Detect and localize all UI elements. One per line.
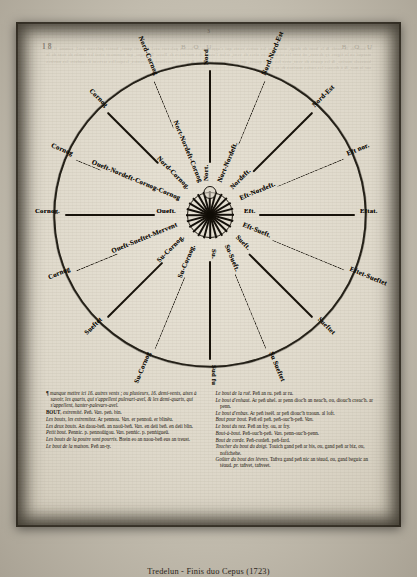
dictionary-entry: ¶ manque mettre ici 16. autres vents ; o… <box>46 390 207 408</box>
compass-rose-figure: Nort.NordNort-Nordeft.Nord-Nord-EstNorde… <box>54 60 366 370</box>
ray-label-french: Nord-Nord-Est <box>260 30 284 76</box>
column-right: Le bout de la ruë. Peñ an ru. peñ ar ru.… <box>216 390 377 518</box>
dictionary-entry: Goûter du bout des lévres. Tañva gand pe… <box>216 456 377 468</box>
hub-cap-circle <box>204 186 217 199</box>
dictionary-entry: Le bout d'enhaut. Ar peñ uhel. ar penn d… <box>216 397 377 409</box>
ray-solid-rule <box>209 261 211 360</box>
running-head-right: B O U <box>342 43 375 51</box>
ray-label-french: Sueftet <box>317 315 337 335</box>
dictionary-entry: Bout pour bout. Peñ eil peñ. peñ-ouc'h-p… <box>216 416 377 422</box>
dictionary-entry: Les bouts, les extremitez. Ar pennou. Va… <box>46 416 207 422</box>
scan-background: le bout de la corde & le bout du doigt, … <box>0 0 417 577</box>
ray-label-french: Cornog. <box>35 207 60 214</box>
dictionary-entry: Les deux bouts. An daou-beñ. an naoü-beñ… <box>46 423 207 429</box>
dictionary-entry: Petit bout. Pennic. p. pennoüigou. Van. … <box>46 429 207 435</box>
running-head-left: B O U <box>181 43 214 51</box>
ray-label-breton: Su. <box>211 249 218 259</box>
ray-label-french: Eft nor. <box>346 141 371 157</box>
ray-label-french: Sueftet <box>83 315 103 335</box>
hub-center-dot <box>207 212 214 219</box>
ray-label-french: Su Sueftet <box>268 351 287 383</box>
ray-label-french: Eftet-Sueftet <box>349 265 388 287</box>
ray-label-french: Su-Cornog <box>132 351 151 385</box>
column-left: ¶ manque mettre ici 16. autres vents ; o… <box>46 390 207 518</box>
ray-label-french: Nord <box>202 49 209 65</box>
dictionary-entry: Bout-à-bout. Peñ-ouc'h-peñ. Van. penn-ou… <box>216 430 377 436</box>
dictionary-entry: Toucher du bout du doigt. Touich gand pe… <box>216 443 377 455</box>
ray-solid-rule <box>259 214 355 216</box>
ray-label-french: Nord-Est <box>310 83 335 108</box>
ray-label-breton: Oueft. <box>156 207 176 214</box>
dictionary-entry: Bout de corde. Peñ-cordeñ. peñ-fard. <box>216 437 377 443</box>
dictionary-entry: Le bout du nez. Peñ an fry. ou, ar fry. <box>216 423 377 429</box>
dictionary-entry: Les bouts de la poutre sont pourris. Bre… <box>46 436 207 442</box>
ray-label-breton: Eft. <box>244 207 256 214</box>
folio-number: 18 <box>42 42 54 51</box>
dictionary-entry: Le bout d'enbas. Ar peñ iseël. ar peñ di… <box>216 410 377 416</box>
book-page: le bout de la corde & le bout du doigt, … <box>16 22 401 527</box>
dictionary-entry: Le bout de la maison. Peñ an-ty. <box>46 443 207 449</box>
dictionary-columns: ¶ manque mettre ici 16. autres vents ; o… <box>46 390 376 518</box>
dictionary-entry: Le bout de la ruë. Peñ an ru. peñ ar ru. <box>216 390 377 396</box>
signature-mark: 3 <box>207 28 210 34</box>
dictionary-entry: BOUT, extremité. Peñ. Van. peṅ. bin. <box>46 409 207 415</box>
compass-hub <box>183 188 237 242</box>
ray-label-french: Cornog <box>88 87 109 108</box>
ray-label-french: Eftat. <box>360 207 378 214</box>
ray-solid-rule <box>65 214 155 216</box>
ray-solid-rule <box>209 70 211 163</box>
ray-label-french: Sud fu <box>211 365 218 385</box>
plate-caption: Tredelun - Finis duo Cepus (1723) <box>0 567 417 576</box>
